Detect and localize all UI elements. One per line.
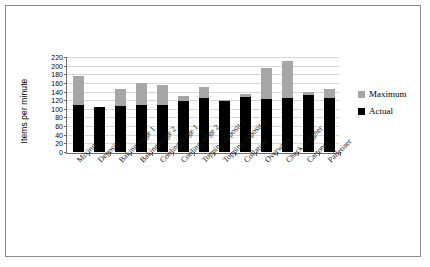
x-axis-labels: MixingDepositBaking stage 1Baking stage …: [66, 158, 366, 228]
legend-label-actual: Actual: [369, 107, 393, 116]
y-tick: [64, 66, 67, 67]
bar-actual: [73, 105, 84, 153]
legend-item-actual: Actual: [358, 107, 420, 116]
y-tick-label: 140: [51, 88, 63, 95]
y-tick: [64, 143, 67, 144]
y-tick: [64, 152, 67, 153]
y-tick: [64, 109, 67, 110]
y-tick-label: 0: [59, 149, 63, 156]
y-tick: [64, 74, 67, 75]
y-tick-label: 200: [51, 62, 63, 69]
legend-item-maximum: Maximum: [358, 90, 420, 99]
y-tick: [64, 57, 67, 58]
y-tick-label: 120: [51, 97, 63, 104]
y-tick-label: 80: [55, 114, 63, 121]
y-tick-label: 220: [51, 54, 63, 61]
bar-slot: [324, 57, 335, 152]
y-axis-title-text: Items per minute: [19, 79, 29, 144]
y-tick-label: 160: [51, 79, 63, 86]
bar-slot: [115, 57, 126, 152]
bar-slot: [73, 57, 84, 152]
legend-swatch-actual: [358, 108, 365, 115]
y-tick: [64, 126, 67, 127]
y-axis-title: Items per minute: [16, 61, 32, 161]
y-tick: [64, 92, 67, 93]
legend-label-maximum: Maximum: [369, 90, 407, 99]
y-tick-label: 40: [55, 131, 63, 138]
y-tick: [64, 117, 67, 118]
y-tick-label: 20: [55, 140, 63, 147]
y-tick-label: 100: [51, 105, 63, 112]
legend-swatch-maximum: [358, 91, 365, 98]
bar-slot: [94, 57, 105, 152]
chart-frame: Items per minute 02040608010012014016018…: [5, 5, 421, 257]
y-tick: [64, 83, 67, 84]
y-tick-label: 180: [51, 71, 63, 78]
y-tick: [64, 135, 67, 136]
y-tick-label: 60: [55, 123, 63, 130]
y-tick: [64, 100, 67, 101]
chart-legend: Maximum Actual: [358, 90, 420, 124]
